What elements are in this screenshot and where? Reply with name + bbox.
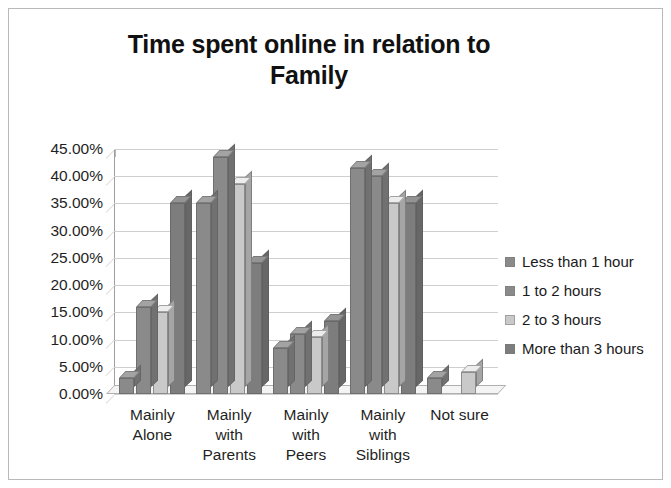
legend-swatch-icon [505,257,515,267]
gridline-riser [106,332,114,349]
bar-group [350,149,416,394]
x-axis-tick-line: with [268,425,345,445]
chart-title-line-1: Time spent online in relation to [49,29,569,60]
chart-title: Time spent online in relation to Family [49,29,569,90]
x-axis-tick-line: Mainly [114,405,191,425]
x-axis-tick-line: Siblings [344,445,421,465]
gridline-riser [106,142,114,159]
y-axis-tick-label: 30.00% [23,222,103,240]
bar-side [476,359,483,387]
gridline-riser [106,196,114,213]
bar-group [273,149,339,394]
bar-side [211,190,218,387]
x-axis-labels: MainlyAloneMainlywithParentsMainlywithPe… [106,405,506,483]
bar-side [168,299,175,387]
legend-label: 1 to 2 hours [522,282,601,299]
gridline-riser [106,250,114,267]
legend-item[interactable]: More than 3 hours [505,334,665,363]
x-axis-tick-label: MainlywithParents [191,405,268,464]
y-axis-tick-label: 35.00% [23,194,103,212]
chart-legend: Less than 1 hour1 to 2 hours2 to 3 hours… [505,247,665,363]
x-axis-tick-label: Not sure [421,405,498,425]
bar-side [228,144,235,387]
bar-face [119,378,134,394]
bar-side [151,293,158,387]
y-axis-tick-label: 5.00% [23,358,103,376]
bar-side [382,163,389,387]
x-axis-tick-label: MainlywithSiblings [344,405,421,464]
bar-face [427,378,442,394]
gridline-riser [106,305,114,322]
x-axis-tick-line: Alone [114,425,191,445]
bar-side [245,171,252,387]
y-axis-tick-label: 15.00% [23,303,103,321]
x-axis-tick-line: with [344,425,421,445]
gridline [114,394,498,395]
gridline-riser [106,169,114,186]
y-axis-tick-label: 0.00% [23,385,103,403]
bar-face [461,372,476,394]
legend-label: 2 to 3 hours [522,311,601,328]
bar [350,168,365,394]
legend-swatch-icon [505,286,515,296]
bar-side [185,190,192,387]
bar-group [119,149,185,394]
y-axis-tick-label: 25.00% [23,249,103,267]
bar-side [262,250,269,387]
x-axis-tick-label: MainlywithPeers [268,405,345,464]
bar-face [196,203,211,394]
legend-label: Less than 1 hour [522,253,634,270]
x-axis-tick-line: Mainly [191,405,268,425]
plot-area [106,141,498,394]
legend-swatch-icon [505,344,515,354]
bar-side [365,155,372,387]
chart-title-line-2: Family [49,60,569,91]
bar [427,378,442,394]
chart-frame: Time spent online in relation to Family … [8,8,663,480]
x-axis-tick-line: Mainly [268,405,345,425]
gridline-riser [106,278,114,295]
bar-group [196,149,262,394]
bar [273,348,288,394]
y-axis-tick-label: 10.00% [23,331,103,349]
gridline-riser [106,223,114,240]
bar-side [399,190,406,387]
bar [461,372,476,394]
x-axis-tick-line: Peers [268,445,345,465]
bar-series-container [114,149,498,394]
y-axis-labels: 0.00%5.00%10.00%15.00%20.00%25.00%30.00%… [23,141,103,401]
legend-item[interactable]: Less than 1 hour [505,247,665,276]
bar-side [416,190,423,387]
x-axis-tick-line: Mainly [344,405,421,425]
legend-swatch-icon [505,315,515,325]
x-axis-tick-line: Parents [191,445,268,465]
legend-label: More than 3 hours [522,340,644,357]
y-axis-tick-label: 45.00% [23,140,103,158]
legend-item[interactable]: 1 to 2 hours [505,276,665,305]
x-axis-tick-line: Not sure [421,405,498,425]
bar-face [273,348,288,394]
bar [119,378,134,394]
bar [196,203,211,394]
x-axis-tick-label: MainlyAlone [114,405,191,445]
bar-group [427,149,493,394]
gridline-riser [106,359,114,376]
y-axis-tick-label: 40.00% [23,167,103,185]
legend-item[interactable]: 2 to 3 hours [505,305,665,334]
x-axis-tick-line: with [191,425,268,445]
bar-face [350,168,365,394]
y-axis-tick-label: 20.00% [23,276,103,294]
